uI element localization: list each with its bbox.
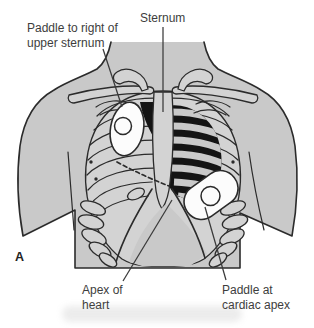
label-paddle-apex-line1: Paddle at xyxy=(222,283,290,298)
label-paddle-upper: Paddle to right of upper sternum xyxy=(27,21,118,51)
label-paddle-upper-line2: upper sternum xyxy=(27,36,118,51)
label-paddle-upper-line1: Paddle to right of xyxy=(27,21,118,36)
defibrillation-figure-panel: Paddle to right of upper sternum Sternum… xyxy=(0,0,314,328)
label-sternum: Sternum xyxy=(140,11,185,26)
panel-letter: A xyxy=(15,250,24,264)
label-apex-line1: Apex of xyxy=(82,283,123,298)
scan-artifact xyxy=(62,306,242,322)
